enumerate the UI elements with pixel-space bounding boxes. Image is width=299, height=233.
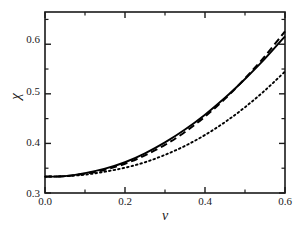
curve-dotted [45,72,285,177]
figure-canvas: χ v 0.3 0.4 0.5 0.6 0.0 0.2 0.4 0.6 [0,0,299,233]
axis-ticks [45,12,285,193]
plot-area [0,0,299,233]
data-curves [45,31,285,176]
curve-solid [45,36,285,176]
axis-frame [45,12,285,193]
